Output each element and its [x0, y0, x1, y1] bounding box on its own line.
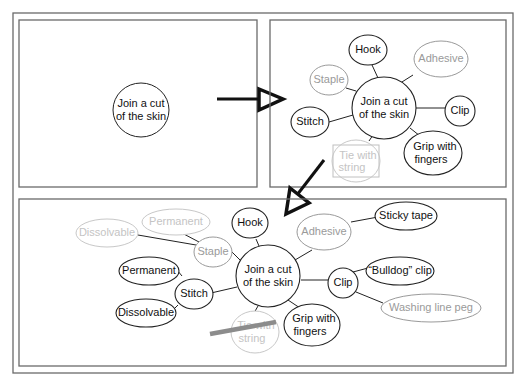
center-node-line2: of the skin — [359, 108, 409, 120]
node-grip-line1: Grip with — [413, 140, 456, 152]
mind-map-diagram: Join a cut of the skin Join a cut of the… — [0, 0, 528, 384]
node-grip-line2: fingers — [414, 153, 448, 165]
node-staple-label: Staple — [197, 245, 228, 257]
node-bulldog-clip-label: “Bulldog” clip — [368, 264, 432, 276]
center-node-line1: Join a cut — [117, 97, 164, 109]
node-permanent-stitch-label: Permanent — [122, 264, 176, 276]
panel-3: Join a cut of the skin Hook Adhesive Sti… — [19, 199, 506, 366]
node-hook-label: Hook — [237, 216, 263, 228]
node-sticky-tape-label: Sticky tape — [379, 209, 433, 221]
node-tie-line1: Tie with — [339, 149, 377, 161]
node-permanent-staple-label: Permanent — [149, 215, 203, 227]
center-node-line1: Join a cut — [244, 263, 291, 275]
node-washing-line-peg-label: Washing line peg — [389, 301, 473, 313]
node-adhesive-label: Adhesive — [418, 52, 463, 64]
node-tie-line2: string — [239, 332, 266, 344]
node-tie-line2: string — [339, 161, 366, 173]
node-clip-label: Clip — [334, 276, 353, 288]
arrow-right-icon — [217, 89, 283, 110]
node-dissolvable-staple-label: Dissolvable — [79, 226, 135, 238]
node-grip-line1: Grip with — [292, 312, 335, 324]
node-stitch-label: Stitch — [180, 287, 208, 299]
panel-1: Join a cut of the skin — [19, 20, 257, 187]
node-staple-label: Staple — [313, 73, 344, 85]
center-node-line2: of the skin — [116, 110, 166, 122]
center-node-line2: of the skin — [243, 276, 293, 288]
center-node-line1: Join a cut — [360, 95, 407, 107]
node-stitch-label: Stitch — [296, 115, 324, 127]
node-clip-label: Clip — [451, 104, 470, 116]
node-adhesive-label: Adhesive — [301, 225, 346, 237]
node-dissolvable-stitch-label: Dissolvable — [118, 306, 174, 318]
node-hook-label: Hook — [355, 43, 381, 55]
panel-2: Join a cut of the skin Hook Adhesive Sta… — [270, 20, 506, 187]
node-grip-line2: fingers — [293, 325, 327, 337]
